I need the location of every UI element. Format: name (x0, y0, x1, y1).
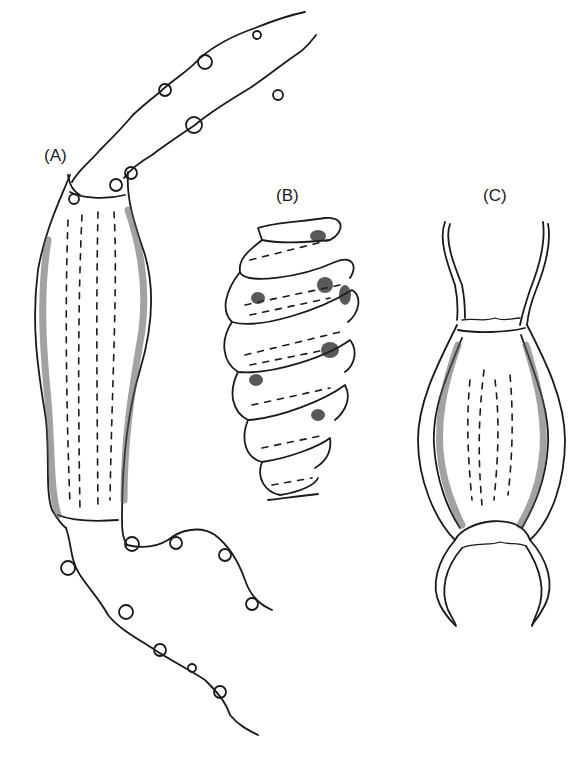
egg-case-figure: (A) (B) (C) (0, 0, 584, 764)
panel-c-drawing (0, 0, 584, 764)
